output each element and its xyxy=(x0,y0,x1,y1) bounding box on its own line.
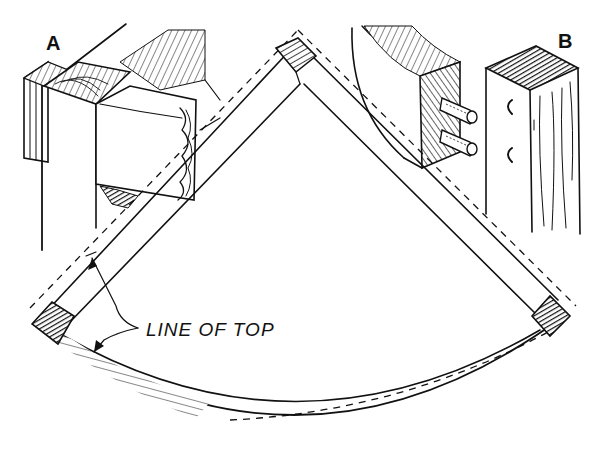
line-of-top-annotation: LINE OF TOP xyxy=(86,252,275,352)
detail-a-label: A xyxy=(46,32,60,54)
detail-b-label: B xyxy=(558,30,572,52)
woodwork-diagram: A B xyxy=(0,0,606,450)
line-of-top-label: LINE OF TOP xyxy=(146,319,275,340)
detail-a-corner-joint: A xyxy=(24,24,220,250)
top-corner-block xyxy=(276,38,316,72)
curved-front-rail xyxy=(34,312,564,420)
